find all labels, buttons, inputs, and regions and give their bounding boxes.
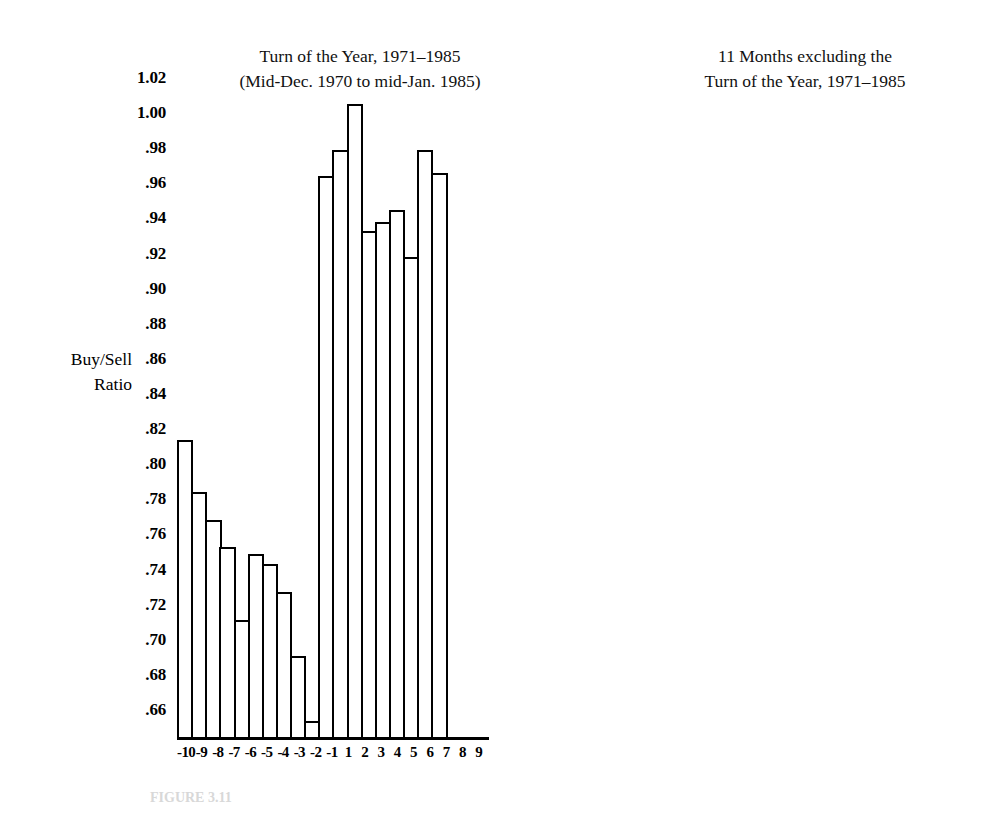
bar [431, 173, 447, 737]
right-chart-panel: -10-9-8-7-6-5-4-3-2-1123456789 [560, 0, 1002, 814]
x-axis-tick: -9 [193, 744, 209, 761]
left-chart-bars [177, 58, 487, 737]
x-axis-tick: -8 [210, 744, 226, 761]
x-axis-tick: -7 [226, 744, 242, 761]
x-axis-tick: 9 [471, 744, 487, 761]
left-chart-baseline [177, 737, 489, 740]
left-chart-x-axis-labels: -10-9-8-7-6-5-4-3-2-1123456789 [177, 744, 487, 761]
x-axis-tick: 4 [389, 744, 405, 761]
x-axis-tick: 5 [405, 744, 421, 761]
x-axis-tick: -5 [259, 744, 275, 761]
x-axis-tick: -3 [291, 744, 307, 761]
x-axis-tick: 7 [438, 744, 454, 761]
x-axis-tick: -2 [308, 744, 324, 761]
left-chart-panel: -10-9-8-7-6-5-4-3-2-1123456789 [0, 0, 560, 814]
x-axis-tick: 2 [356, 744, 372, 761]
x-axis-tick: -6 [242, 744, 258, 761]
x-axis-tick: 6 [422, 744, 438, 761]
x-axis-tick: -10 [177, 744, 193, 761]
x-axis-tick: -1 [324, 744, 340, 761]
x-axis-tick: -4 [275, 744, 291, 761]
x-axis-tick: 1 [340, 744, 356, 761]
x-axis-tick: 8 [454, 744, 470, 761]
figure-caption: FIGURE 3.11 [150, 790, 232, 806]
x-axis-tick: 3 [373, 744, 389, 761]
